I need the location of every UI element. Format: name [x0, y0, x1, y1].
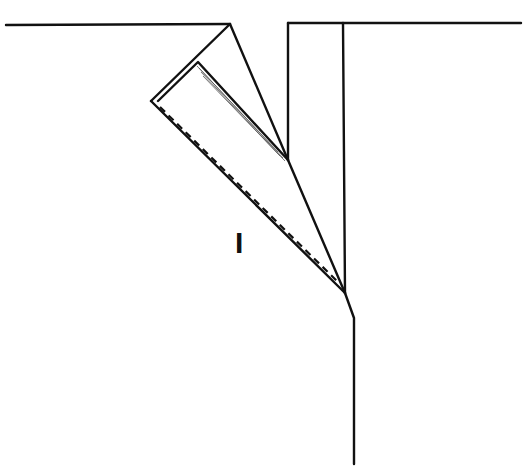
- top-edge-left: [6, 24, 230, 25]
- fold-shading: [197, 66, 285, 161]
- diagram-canvas: [0, 0, 525, 471]
- flap-upper-edge: [151, 24, 230, 101]
- center-front-line: [343, 23, 345, 293]
- stitch-line: [160, 107, 339, 283]
- flap-fold-edge: [230, 24, 288, 160]
- flap-fold-continuation: [288, 160, 345, 293]
- lower-seam-line: [345, 293, 354, 464]
- flap-lower-edge: [151, 101, 345, 293]
- figure-label: I: [235, 228, 243, 258]
